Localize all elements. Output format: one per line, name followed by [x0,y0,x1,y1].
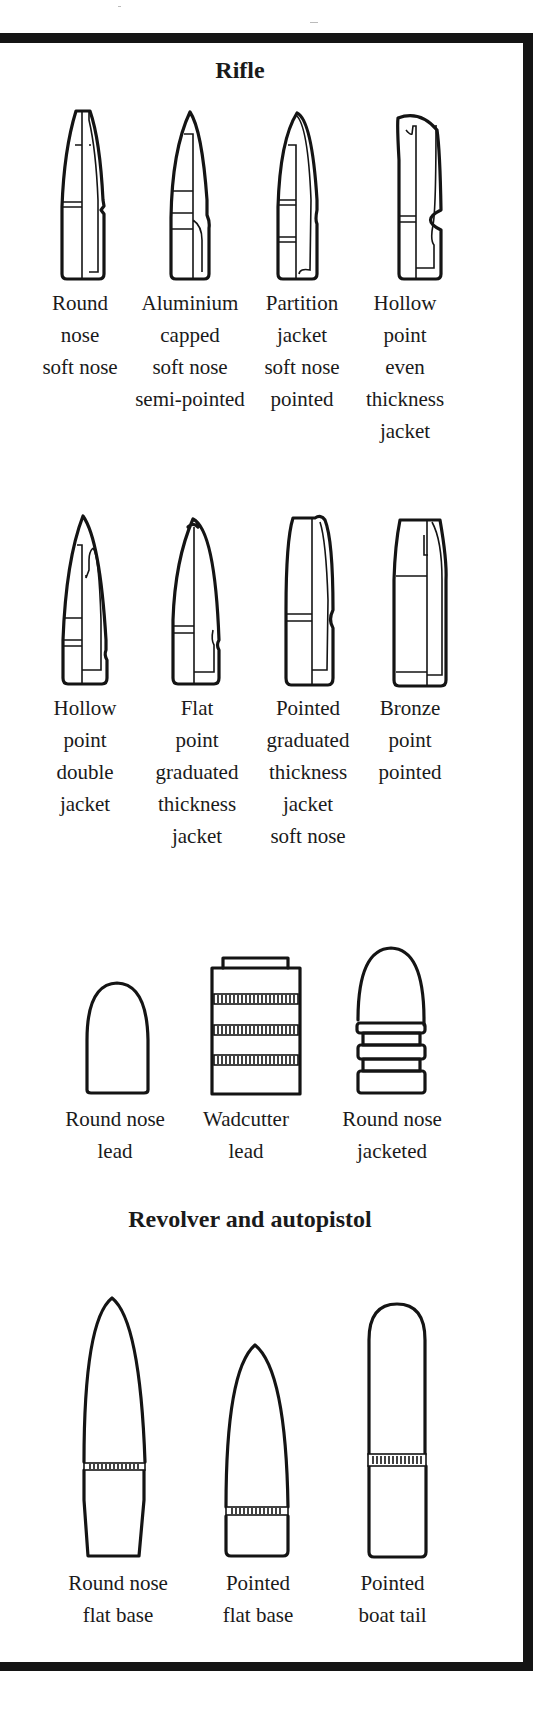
label-hollow-point-double-jacket: Hollow point double jacket [35,692,135,820]
label-line: soft nose [28,351,132,383]
label-line: Flat [142,692,252,724]
label-line: point [360,724,460,756]
label-line: point [35,724,135,756]
bullet-diagram [0,0,549,1715]
label-line: jacket [253,788,363,820]
label-line: Bronze [360,692,460,724]
label-line: Hollow [35,692,135,724]
label-line: soft nose [124,351,256,383]
label-line: Round nose [53,1567,183,1599]
label-aluminium-capped: Aluminium capped soft nose semi-pointed [124,287,256,415]
label-line: flat base [53,1599,183,1631]
label-partition-jacket: Partition jacket soft nose pointed [252,287,352,415]
label-line: jacket [142,820,252,852]
label-line: nose [28,319,132,351]
pointed-boat-tail-bullet-icon [368,1304,426,1557]
label-line: jacket [252,319,352,351]
label-round-nose-lead: Round nose lead [50,1103,180,1167]
label-line: graduated [142,756,252,788]
label-line: Wadcutter [194,1103,298,1135]
label-line: Partition [252,287,352,319]
pointed-flat-base-bullet-icon [226,1345,288,1556]
label-round-nose-soft-nose: Round nose soft nose [28,287,132,383]
hollow-point-double-jacket-bullet-icon [63,516,107,684]
label-line: thickness [253,756,363,788]
flat-point-graduated-bullet-icon [173,519,219,684]
label-line: Pointed [208,1567,308,1599]
label-hollow-point-even-jacket: Hollow point even thickness jacket [355,287,455,447]
label-line: lead [194,1135,298,1167]
label-line: flat base [208,1599,308,1631]
label-line: point [355,319,455,351]
label-pointed-flat-base: Pointed flat base [208,1567,308,1631]
label-line: lead [50,1135,180,1167]
hollow-point-even-jacket-bullet-icon [398,116,441,279]
label-line: Aluminium [124,287,256,319]
label-line: pointed [252,383,352,415]
label-line: thickness [142,788,252,820]
label-pointed-boat-tail: Pointed boat tail [340,1567,445,1631]
label-bronze-point: Bronze point pointed [360,692,460,788]
round-nose-soft-nose-bullet-icon [62,111,104,279]
round-nose-jacketed-bullet-icon [357,948,425,1093]
aluminium-capped-bullet-icon [171,112,209,279]
round-nose-lead-bullet-icon [87,983,148,1093]
partition-jacket-bullet-icon [278,113,317,279]
bronze-point-bullet-icon [394,520,446,686]
label-line: boat tail [340,1599,445,1631]
label-line: double [35,756,135,788]
label-line: Hollow [355,287,455,319]
label-line: Round nose [327,1103,457,1135]
label-line: pointed [360,756,460,788]
pointed-graduated-soft-nose-bullet-icon [286,516,333,685]
label-line: jacket [355,415,455,447]
label-wadcutter-lead: Wadcutter lead [194,1103,298,1167]
label-line: thickness [355,383,455,415]
label-line: soft nose [252,351,352,383]
label-line: point [142,724,252,756]
label-line: even [355,351,455,383]
label-line: graduated [253,724,363,756]
label-flat-point-graduated: Flat point graduated thickness jacket [142,692,252,852]
label-pointed-graduated-soft-nose: Pointed graduated thickness jacket soft … [253,692,363,852]
label-line: Round [28,287,132,319]
round-nose-flat-base-bullet-icon [84,1298,145,1556]
wadcutter-bullet-icon [212,958,300,1094]
label-line: jacket [35,788,135,820]
label-round-nose-flat-base: Round nose flat base [53,1567,183,1631]
label-line: jacketed [327,1135,457,1167]
label-line: Pointed [340,1567,445,1599]
label-line: semi-pointed [124,383,256,415]
label-line: Pointed [253,692,363,724]
label-line: Round nose [50,1103,180,1135]
label-line: capped [124,319,256,351]
label-line: soft nose [253,820,363,852]
label-round-nose-jacketed: Round nose jacketed [327,1103,457,1167]
